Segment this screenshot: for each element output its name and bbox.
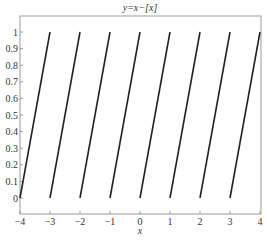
y-tick-label: 0.4: [6, 126, 19, 137]
sawtooth-segment: [170, 32, 200, 198]
sawtooth-segment: [20, 32, 50, 198]
sawtooth-segment: [80, 32, 110, 198]
sawtooth-segment: [230, 32, 260, 198]
x-tick-label: 4: [258, 216, 263, 227]
plot-frame: [20, 16, 261, 214]
x-tick-label: −1: [105, 216, 116, 227]
x-tick-label: 3: [228, 216, 233, 227]
y-tick-label: 0.9: [6, 43, 19, 54]
y-tick-label: 0.7: [6, 76, 19, 87]
y-tick-label: 0.3: [6, 143, 19, 154]
sawtooth-segment: [200, 32, 230, 198]
x-tick-label: −3: [45, 216, 56, 227]
sawtooth-segment: [110, 32, 140, 198]
sawtooth-segment: [50, 32, 80, 198]
x-axis-label: x: [137, 225, 143, 236]
y-tick-label: 0.1: [6, 176, 19, 187]
x-tick-label: 1: [168, 216, 173, 227]
y-tick-label: 0.5: [6, 110, 19, 121]
y-tick-label: 1: [13, 27, 18, 38]
x-tick-label: −4: [15, 216, 26, 227]
sawtooth-chart: y=x−[x] 00.10.20.30.40.50.60.70.80.91 −4…: [0, 0, 267, 242]
x-tick-label: −2: [75, 216, 86, 227]
x-tick-label: 2: [198, 216, 203, 227]
data-series: [20, 32, 260, 198]
y-tick-label: 0.2: [6, 159, 19, 170]
y-tick-label: 0.6: [6, 93, 19, 104]
chart-title: y=x−[x]: [122, 2, 158, 13]
y-tick-label: 0: [13, 193, 18, 204]
y-tick-label: 0.8: [6, 60, 19, 71]
sawtooth-segment: [140, 32, 170, 198]
